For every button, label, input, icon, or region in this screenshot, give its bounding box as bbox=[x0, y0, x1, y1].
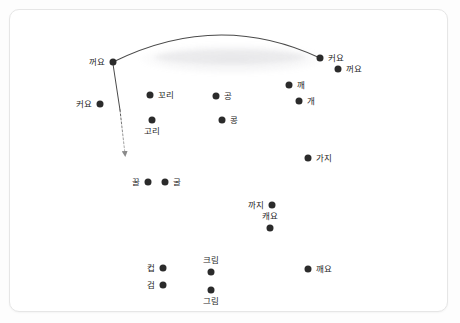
data-point[interactable] bbox=[213, 93, 220, 100]
data-point[interactable] bbox=[149, 117, 156, 124]
data-point-label: 꼬리 bbox=[158, 91, 174, 100]
data-point-label: 캐요 bbox=[262, 212, 278, 221]
data-point[interactable] bbox=[335, 66, 342, 73]
data-point-label: 가지 bbox=[316, 154, 332, 163]
data-point-label: 깨 bbox=[297, 81, 305, 90]
screenshot-root: 꺼요커요꼬리고리공콩커요꺼요깨개가지꿀굴까지캐요컵검크림그림깨요 bbox=[0, 0, 460, 323]
data-point-label: 컵 bbox=[147, 264, 155, 273]
data-point-label: 커요 bbox=[328, 54, 344, 63]
data-point-label: 고리 bbox=[144, 127, 160, 136]
data-point-label: 콩 bbox=[230, 116, 238, 125]
downward-arrow-dashed-segment bbox=[120, 110, 125, 154]
data-point-label: 공 bbox=[224, 92, 232, 101]
data-point[interactable] bbox=[296, 98, 303, 105]
data-point-label: 꿀 bbox=[132, 178, 140, 187]
data-point[interactable] bbox=[160, 282, 167, 289]
data-point-label: 커요 bbox=[76, 100, 92, 109]
data-point[interactable] bbox=[110, 59, 117, 66]
data-point-label: 꺼요 bbox=[89, 58, 105, 67]
data-point[interactable] bbox=[208, 269, 215, 276]
data-point-label: 그림 bbox=[203, 297, 219, 306]
data-point-label: 굴 bbox=[173, 178, 181, 187]
data-point[interactable] bbox=[219, 117, 226, 124]
data-point-label: 개 bbox=[307, 97, 315, 106]
data-point[interactable] bbox=[269, 202, 276, 209]
data-point[interactable] bbox=[147, 92, 154, 99]
data-point[interactable] bbox=[160, 265, 167, 272]
data-point-label: 크림 bbox=[203, 256, 219, 265]
data-point-label: 깨요 bbox=[316, 265, 332, 274]
data-point[interactable] bbox=[305, 155, 312, 162]
scatter-plot-canvas bbox=[0, 0, 460, 323]
data-point-label: 까지 bbox=[248, 201, 264, 210]
data-point[interactable] bbox=[145, 179, 152, 186]
arc-connector-path bbox=[113, 35, 320, 62]
data-point[interactable] bbox=[317, 55, 324, 62]
data-point[interactable] bbox=[305, 266, 312, 273]
data-point-label: 검 bbox=[147, 281, 155, 290]
data-point[interactable] bbox=[97, 101, 104, 108]
data-point[interactable] bbox=[208, 287, 215, 294]
data-point[interactable] bbox=[162, 179, 169, 186]
downward-arrow-solid-segment bbox=[113, 64, 120, 110]
data-point[interactable] bbox=[286, 82, 293, 89]
data-point-label: 꺼요 bbox=[346, 65, 362, 74]
data-point[interactable] bbox=[267, 225, 274, 232]
